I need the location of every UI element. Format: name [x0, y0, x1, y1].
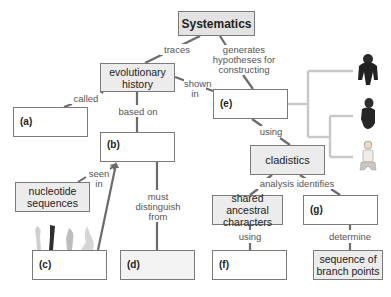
link-label-shown-in: shown in: [184, 79, 206, 99]
node-f-blank[interactable]: (f): [212, 250, 287, 280]
gorilla-image: [356, 52, 380, 86]
link-label-determine: determine: [327, 231, 373, 242]
link-label-called: called: [70, 93, 102, 104]
node-g-blank[interactable]: (g): [303, 195, 378, 225]
node-systematics: Systematics: [178, 11, 255, 36]
node-b-blank[interactable]: (b): [100, 132, 175, 162]
node-nucleotide-sequences: nucleotide sequences: [15, 182, 90, 212]
link-label-using-f: using: [236, 231, 264, 242]
node-cladistics: cladistics: [250, 145, 325, 175]
node-c-blank[interactable]: (c): [32, 250, 107, 280]
link-label-generates: generates hypotheses for constructing: [208, 45, 280, 75]
node-e-blank[interactable]: (e): [213, 89, 288, 119]
link-label-must-distinguish-from: must distinguish from: [133, 192, 183, 222]
concept-map: Systematics evolutionary history (a) (b)…: [0, 0, 391, 297]
link-label-seen-in: seen in: [86, 169, 112, 189]
link-label-using-cladistics: using: [256, 126, 286, 137]
link-label-traces: traces: [160, 44, 194, 55]
node-sequence-of-branch-points: sequence of branch points: [313, 250, 383, 280]
chimpanzee-image: [358, 97, 378, 131]
human-image: [357, 140, 379, 174]
node-a-blank[interactable]: (a): [13, 107, 88, 137]
link-label-analysis-identifies: analysis identifies: [255, 178, 339, 189]
node-evolutionary-history: evolutionary history: [100, 63, 175, 92]
homologous-limbs-image: [33, 224, 103, 252]
node-shared-ancestral-characters: shared ancestral characters: [212, 195, 283, 225]
node-d-blank[interactable]: (d): [120, 250, 195, 280]
link-label-based-on: based on: [117, 106, 159, 117]
